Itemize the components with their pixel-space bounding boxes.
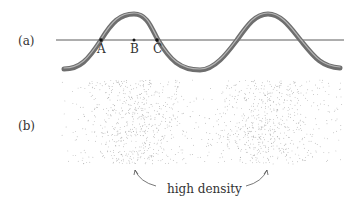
point-c-label: C (153, 42, 162, 56)
arrow-left-icon (135, 170, 156, 186)
panel-a-label: (a) (18, 34, 35, 48)
wave-diagram (0, 0, 356, 209)
point-a-label: A (97, 42, 106, 56)
point-b-label: B (130, 42, 139, 56)
particle-density-field (62, 80, 343, 165)
high-density-label: high density (167, 182, 242, 196)
panel-b-label: (b) (18, 119, 35, 133)
arrow-right-icon (246, 170, 267, 186)
